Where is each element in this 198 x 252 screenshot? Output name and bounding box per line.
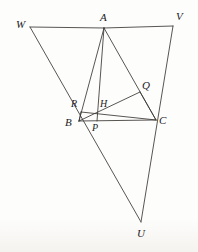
- figure-background: [0, 0, 198, 252]
- vertex-label-W: W: [16, 19, 25, 30]
- vertex-label-V: V: [176, 11, 183, 22]
- vertex-label-A: A: [100, 12, 107, 23]
- vertex-label-H: H: [100, 99, 107, 109]
- vertex-label-R: R: [71, 99, 77, 109]
- geometry-figure: W A V Q R H B P C U: [0, 0, 198, 252]
- vertex-label-P: P: [92, 123, 98, 133]
- vertex-label-C: C: [159, 115, 166, 126]
- vertex-label-B: B: [65, 117, 72, 128]
- vertex-label-Q: Q: [142, 80, 150, 91]
- vertex-label-U: U: [137, 228, 145, 239]
- geometry-canvas: [0, 0, 198, 252]
